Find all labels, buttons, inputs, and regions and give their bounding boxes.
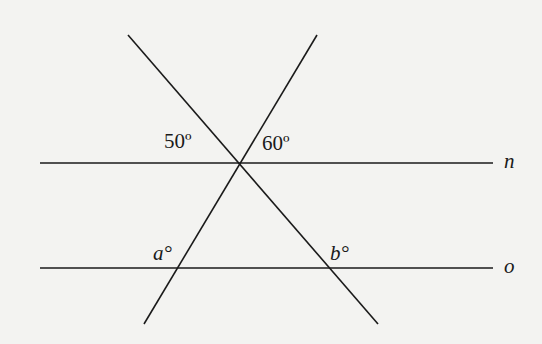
line-label-o: o <box>504 256 515 277</box>
lines-canvas <box>0 0 542 344</box>
transversal-right-to-left <box>144 35 317 324</box>
angle-label-50: 50º <box>164 131 192 152</box>
line-label-n: n <box>504 151 515 172</box>
geometry-diagram: 50º 60º a° b° n o <box>0 0 542 344</box>
angle-label-60: 60º <box>262 133 290 154</box>
transversal-left-to-right <box>128 35 378 324</box>
angle-label-b: b° <box>330 243 349 264</box>
angle-label-a: a° <box>153 243 172 264</box>
